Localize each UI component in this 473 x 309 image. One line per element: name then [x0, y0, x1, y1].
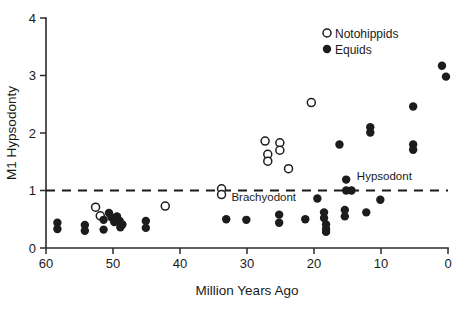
data-point	[81, 227, 89, 235]
data-point	[341, 212, 349, 220]
data-point	[335, 140, 343, 148]
y-tick-label-4: 4	[29, 11, 36, 26]
y-tick-label-0: 0	[29, 241, 36, 256]
data-point	[99, 225, 107, 233]
annotation-brachyodont: Brachyodont	[231, 191, 296, 203]
data-point	[409, 145, 417, 153]
data-point	[142, 224, 150, 232]
y-tick-label-2: 2	[29, 126, 36, 141]
x-axis-title: Million Years Ago	[196, 283, 299, 298]
data-point	[307, 99, 315, 107]
series-equids	[53, 62, 450, 237]
data-point	[275, 219, 283, 227]
data-point	[99, 216, 107, 224]
data-point	[242, 216, 250, 224]
data-point	[264, 157, 272, 165]
data-point	[362, 208, 370, 216]
data-point	[222, 215, 230, 223]
x-tick-label-50: 50	[106, 256, 120, 271]
data-point	[116, 223, 124, 231]
data-point	[409, 102, 417, 110]
data-point	[53, 225, 61, 233]
x-tick-label-0: 0	[444, 256, 451, 271]
annotation-hypsodont: Hypsodont	[357, 170, 413, 182]
data-point	[161, 202, 169, 210]
data-point	[301, 215, 309, 223]
y-tick-label-3: 3	[29, 68, 36, 83]
data-point	[376, 196, 384, 204]
data-point	[442, 72, 450, 80]
x-tick-label-10: 10	[374, 256, 388, 271]
x-tick-label-40: 40	[173, 256, 187, 271]
data-point	[322, 228, 330, 236]
data-point	[342, 175, 350, 183]
data-point	[261, 137, 269, 145]
legend-label-equids: Equids	[335, 43, 372, 57]
y-tick-label-1: 1	[29, 183, 36, 198]
data-point	[92, 203, 100, 211]
data-point	[285, 165, 293, 173]
x-tick-label-20: 20	[307, 256, 321, 271]
x-tick-label-60: 60	[39, 256, 53, 271]
data-point	[366, 128, 374, 136]
y-axis-title: M1 Hypsodonty	[4, 86, 19, 180]
legend-label-notohippids: Notohippids	[335, 27, 398, 41]
legend-marker-notohippids	[323, 29, 331, 37]
data-point	[438, 62, 446, 70]
data-point	[347, 186, 355, 194]
chart-svg: 012346050403020100Million Years AgoM1 Hy…	[0, 0, 473, 309]
scatter-plot-figure: 012346050403020100Million Years AgoM1 Hy…	[0, 0, 473, 309]
legend-marker-equids	[323, 45, 331, 53]
data-point	[313, 194, 321, 202]
data-point	[276, 146, 284, 154]
x-tick-label-30: 30	[240, 256, 254, 271]
data-point	[218, 191, 226, 199]
data-point	[275, 210, 283, 218]
